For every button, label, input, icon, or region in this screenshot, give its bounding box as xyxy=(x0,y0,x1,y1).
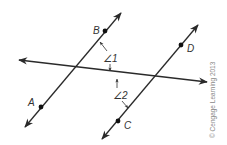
angle-2-pointer-to-cd xyxy=(122,101,128,108)
copyright-notice: © Cengage Learning 2013 xyxy=(209,62,216,138)
point-b xyxy=(103,29,108,34)
point-d xyxy=(179,43,184,48)
angle-1-pointer-to-ab xyxy=(100,42,107,51)
angle-1-label: ∠1 xyxy=(103,53,118,64)
label-b: B xyxy=(93,25,100,36)
geometry-diagram: B A D C ∠1 ∠2 © Cengage Learning 2013 xyxy=(0,0,227,145)
label-d: D xyxy=(187,43,194,54)
angle-2-label: ∠2 xyxy=(113,90,128,101)
diagram-canvas: B A D C ∠1 ∠2 xyxy=(0,0,227,145)
label-c: C xyxy=(124,120,132,131)
point-c xyxy=(116,119,121,124)
point-a xyxy=(39,105,44,110)
label-a: A xyxy=(27,97,35,108)
